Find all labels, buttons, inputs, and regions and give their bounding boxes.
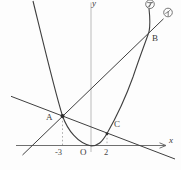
point-C-dot <box>106 132 109 135</box>
point-A-label: A <box>46 113 53 122</box>
x-axis-label: x <box>169 136 173 145</box>
point-B-label: B <box>152 34 158 43</box>
line-AB-tag-circled-i <box>164 8 173 17</box>
point-A-dot <box>61 114 65 118</box>
origin-label: O <box>80 148 87 157</box>
x-tick-2: 2 <box>104 148 108 157</box>
line-through-A-C <box>11 96 175 159</box>
point-C-label: C <box>114 120 120 129</box>
line-through-A-B <box>23 19 164 155</box>
parabola-tag-circled-a <box>146 0 155 9</box>
x-tick-minus-3: -3 <box>55 148 62 157</box>
y-axis-label: y <box>92 0 96 8</box>
coordinate-figure: y x O -3 2 A B C <box>0 0 181 170</box>
figure-canvas <box>0 0 181 170</box>
